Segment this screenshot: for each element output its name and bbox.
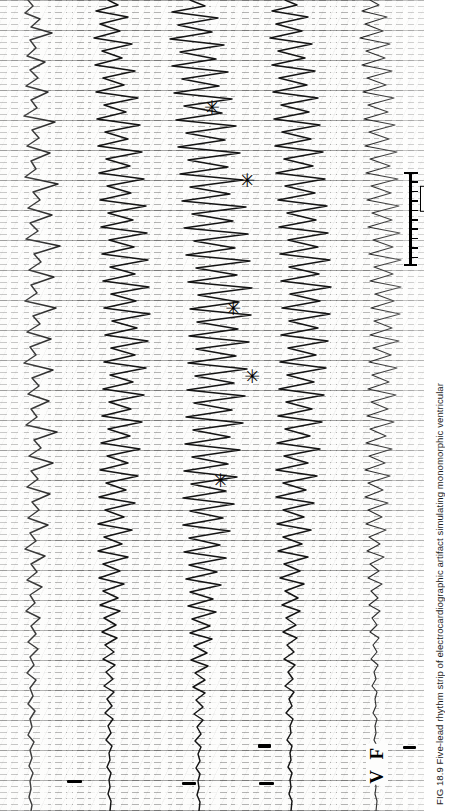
lead-label-vf: V F: [366, 744, 388, 785]
lead-calibration-dash-5: [403, 746, 417, 749]
figure-caption-text: FIG 18.9 Five-lead rhythm strip of elect…: [434, 383, 445, 805]
lead-calibration-dash-1: [67, 780, 82, 783]
lead-calibration-dash-4: [258, 744, 271, 747]
scale-bar-cap-top: [404, 172, 417, 174]
scale-bar-cap-bottom: [404, 264, 417, 266]
lead-calibration-dash-3: [259, 782, 273, 785]
asterisk-marker-1: ✳: [204, 98, 220, 117]
scale-bar-ticks: [410, 172, 418, 266]
ecg-trace-lead-1: [24, 0, 60, 811]
ecg-strip-panel: ✳ ✳ ✳ ✳ ✳ 1 sec V F: [0, 0, 424, 811]
asterisk-marker-4: ✳: [244, 367, 260, 386]
ecg-trace-group: [0, 0, 424, 811]
figure-root: ✳ ✳ ✳ ✳ ✳ 1 sec V F FIG 18.9 Five-lead r…: [0, 0, 449, 811]
asterisk-marker-3: ✳: [225, 299, 241, 318]
figure-caption: FIG 18.9 Five-lead rhythm strip of elect…: [424, 0, 449, 811]
lead-calibration-dash-2: [182, 782, 196, 785]
ecg-trace-lead-4: [270, 0, 331, 811]
ecg-trace-lead-3: [170, 0, 252, 811]
asterisk-marker-5: ✳: [213, 471, 229, 490]
asterisk-marker-2: ✳: [239, 171, 255, 190]
ecg-trace-lead-5: [360, 0, 401, 811]
ecg-trace-lead-2: [94, 0, 150, 811]
